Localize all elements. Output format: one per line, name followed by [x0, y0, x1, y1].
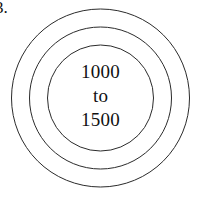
center-range-label: 1000 to 1500 — [48, 60, 153, 132]
center-label-line-1: 1000 — [48, 60, 153, 84]
center-label-line-2: to — [48, 84, 153, 108]
center-label-line-3: 1500 — [48, 108, 153, 132]
concentric-circles-figure: 3. 1000 to 1500 — [0, 0, 205, 203]
